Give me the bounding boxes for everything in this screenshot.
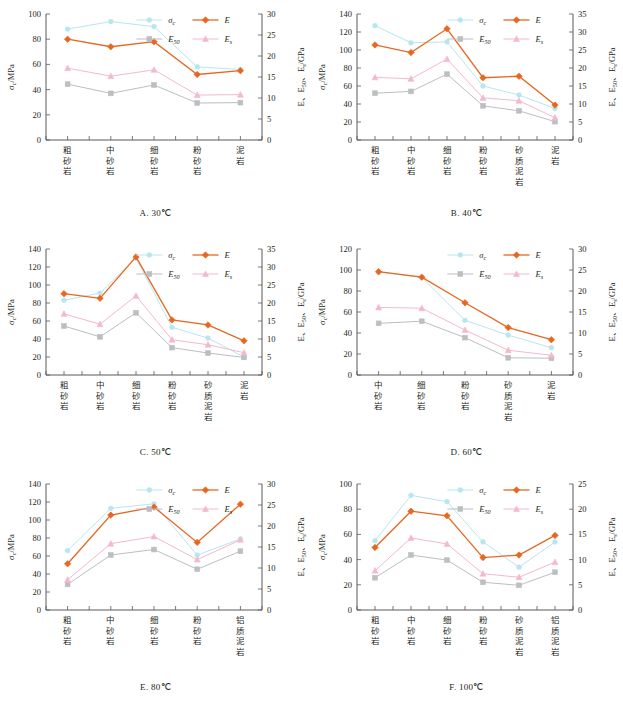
category-label: 质 [551,626,560,636]
category-label: 岩 [96,401,105,411]
y-tick-label: 20 [344,580,353,590]
category-label: 砂 [374,391,383,401]
y-tick-label: 60 [344,307,353,317]
y-axis-right-title: E、E50、Es/GPa [296,282,307,341]
y-axis-right-ticks: 05101520253035 [569,9,587,145]
y2-tick-label: 25 [267,280,276,290]
category-label: 粉 [479,615,488,625]
category-label: 岩 [63,166,72,176]
y-tick-label: 40 [33,334,42,344]
y-tick-label: 0 [37,370,41,380]
chart-caption-d: D. 60℃ [311,447,622,457]
y2-tick-label: 5 [578,349,582,359]
legend-label-E-50: E50 [167,34,180,45]
category-label: 泥 [551,145,560,155]
legend-label-E: E [223,15,230,25]
y-tick-label: 80 [33,533,42,543]
x-category-labels: 粗砂岩中砂岩细砂岩粉砂岩砂质泥岩泥岩 [371,145,560,187]
y2-tick-label: 15 [267,316,276,326]
y-axis-left-title: σc/MPa [6,64,17,90]
y-axis-left-ticks: 020406080100120140 [28,479,50,615]
series-E-50 [373,553,558,588]
category-label: 铝 [236,615,245,625]
plot-area-e: 020406080100120140051015202530粗砂岩中砂岩细砂岩粉… [0,470,311,680]
y-tick-label: 60 [344,529,353,539]
legend-label-sigma-c: σc [479,485,486,496]
category-label: 岩 [407,636,416,646]
y2-tick-label: 5 [267,114,271,124]
y-axis-left-ticks: 020406080100120140 [339,9,361,145]
y2-tick-label: 10 [578,555,587,565]
category-label: 砂 [63,626,72,636]
y2-tick-label: 15 [267,72,276,82]
legend-label-E-50: E50 [478,269,491,280]
category-label: 泥 [236,636,245,646]
y2-tick-label: 20 [578,504,587,514]
x-axis-ticks [357,606,573,610]
category-label: 细 [150,615,159,625]
x-category-labels: 粗砂岩中砂岩细砂岩粉砂岩砂质泥岩铝质泥岩 [371,615,560,657]
series-E-s [372,535,558,580]
chart-e: 020406080100120140051015202530粗砂岩中砂岩细砂岩粉… [0,470,311,680]
x-axis-ticks [357,371,573,375]
category-label: 砂 [443,156,452,166]
series-E-s [372,56,558,120]
series-E-50 [65,547,243,587]
legend-label-E-s: Es [534,34,543,45]
y-axis-right-ticks: 051015202530 [569,244,587,380]
category-label: 岩 [407,166,416,176]
y-tick-label: 100 [339,479,352,489]
legend-label-E-s: Es [223,269,232,280]
y2-tick-label: 25 [578,45,587,55]
y-tick-label: 60 [344,81,353,91]
category-label: 中 [106,145,115,155]
category-label: 砂 [504,380,513,390]
y2-tick-label: 5 [578,580,582,590]
y-tick-label: 140 [28,244,41,254]
legend-label-E-50: E50 [478,504,491,515]
category-label: 砂 [461,391,470,401]
category-label: 中 [106,615,115,625]
y2-tick-label: 10 [267,93,276,103]
x-axis-ticks [46,606,262,610]
series-E-s [65,65,244,97]
y2-tick-label: 10 [578,328,587,338]
series-E-s [376,304,555,357]
category-label: 砂 [479,626,488,636]
y2-tick-label: 0 [578,605,582,615]
chart-caption-a: A. 30℃ [0,208,311,218]
chart-panel-c: 02040608010012014005101520253035粗砂岩中砂岩细砂… [0,235,311,470]
category-label: 岩 [551,647,560,657]
y2-tick-label: 30 [267,9,276,19]
legend-label-E: E [534,250,541,260]
y2-tick-label: 30 [578,244,587,254]
legend-label-E-50: E50 [478,34,491,45]
legend-label-E-s: Es [223,504,232,515]
legend: σcEE50Es [136,250,232,280]
y-tick-label: 100 [339,265,352,275]
chart-caption-f: F. 100℃ [311,682,622,692]
category-label: 岩 [551,156,560,166]
y-tick-label: 140 [28,479,41,489]
y2-tick-label: 0 [267,370,271,380]
y2-tick-label: 25 [578,265,587,275]
category-label: 岩 [106,636,115,646]
category-label: 砂 [407,156,416,166]
category-label: 泥 [551,636,560,646]
category-label: 中 [374,380,383,390]
y2-tick-label: 25 [267,500,276,510]
category-label: 砂 [417,391,426,401]
y-tick-label: 80 [344,63,353,73]
chart-panel-d: 020406080100120051015202530中砂岩细砂岩粉砂岩砂质泥岩… [311,235,622,470]
category-label: 岩 [443,166,452,176]
legend-label-sigma-c: σc [168,15,175,26]
category-label: 中 [407,615,416,625]
y2-tick-label: 0 [267,135,271,145]
category-label: 砂 [371,156,380,166]
y2-tick-label: 15 [578,81,587,91]
category-label: 砂 [63,156,72,166]
category-label: 砂 [371,626,380,636]
y-axis-right-title: E、E50、Es/GPa [296,517,307,576]
y2-tick-label: 0 [578,370,582,380]
category-label: 岩 [106,166,115,176]
